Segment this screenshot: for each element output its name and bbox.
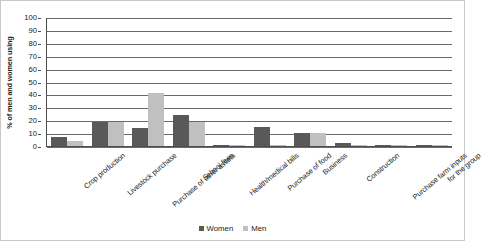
y-axis-tick-labels: 1009080706050403020100 (1, 18, 41, 147)
y-axis-tick-mark (38, 121, 41, 122)
y-axis-tick-mark (38, 95, 41, 96)
bar-men (148, 93, 164, 146)
bar-groups (47, 18, 452, 146)
bar-group (371, 18, 412, 146)
y-axis-tick-label: 10 (29, 130, 37, 138)
bar-men (432, 145, 448, 146)
legend-item: Men (243, 224, 266, 233)
bar-women (173, 115, 189, 146)
bar-group (88, 18, 129, 146)
x-axis-tick-label: Construction (364, 151, 401, 184)
bar-group (250, 18, 291, 146)
bar-group (169, 18, 210, 146)
bar-women (132, 128, 148, 146)
plot-area (46, 18, 452, 147)
legend-label: Men (251, 224, 266, 233)
y-axis-tick-mark (38, 147, 41, 148)
bar-group (290, 18, 331, 146)
y-axis-tick-mark (38, 83, 41, 84)
legend-label: Women (207, 224, 234, 233)
bar-group (209, 18, 250, 146)
y-axis-tick-label: 70 (29, 53, 37, 61)
bar-men (351, 145, 367, 146)
women-swatch (199, 226, 204, 231)
bar-men (67, 141, 83, 146)
bar-men (270, 145, 286, 146)
bar-women (416, 145, 432, 146)
chart-legend: WomenMen (1, 224, 464, 233)
bar-women (92, 122, 108, 147)
x-axis-tick-label: Crop production (82, 151, 127, 191)
bar-women (294, 133, 310, 146)
bar-women (51, 137, 67, 146)
y-axis-tick-mark (38, 18, 41, 19)
y-axis-tick-mark (38, 108, 41, 109)
y-axis-tick-mark (38, 44, 41, 45)
gridline (47, 147, 452, 148)
bar-women (213, 145, 229, 146)
bar-men (108, 122, 124, 147)
x-axis-tick-labels: Crop productionLivestock purchasePurchas… (46, 149, 452, 207)
y-axis-tick-label: 60 (29, 66, 37, 74)
y-axis-tick-label: 0 (33, 143, 37, 151)
bar-men (189, 122, 205, 147)
y-axis-tick-mark (38, 134, 41, 135)
y-axis-tick-label: 100 (24, 14, 37, 22)
bar-group (412, 18, 453, 146)
y-axis-tick-label: 90 (29, 27, 37, 35)
y-axis-tick-label: 30 (29, 104, 37, 112)
y-axis-tick-mark (38, 70, 41, 71)
y-axis-tick-label: 80 (29, 40, 37, 48)
bar-women (375, 145, 391, 146)
y-axis-tick-mark (38, 31, 41, 32)
bar-group (331, 18, 372, 146)
bar-men (229, 145, 245, 146)
bar-group (47, 18, 88, 146)
bar-women (254, 127, 270, 146)
bar-men (391, 145, 407, 146)
x-axis-tick-label: School fees (201, 151, 236, 182)
legend-item: Women (199, 224, 234, 233)
y-axis-tick-mark (38, 57, 41, 58)
y-axis-tick-label: 40 (29, 91, 37, 99)
bar-men (310, 133, 326, 146)
y-axis-tick-label: 50 (29, 79, 37, 87)
bar-group (128, 18, 169, 146)
bar-women (335, 143, 351, 146)
y-axis-tick-label: 20 (29, 117, 37, 125)
men-swatch (243, 226, 248, 231)
x-axis-tick-label: Livestock purchase (125, 151, 178, 197)
